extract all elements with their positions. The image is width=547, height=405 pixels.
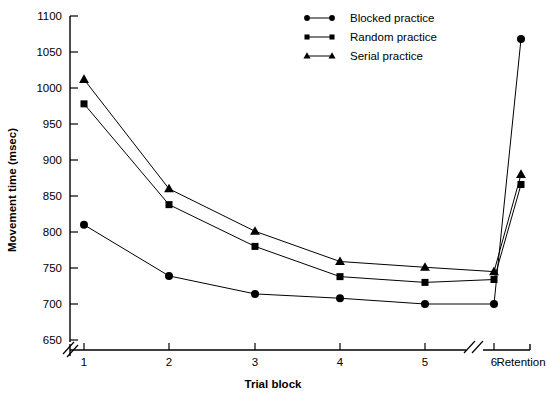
chart-legend: Blocked practiceRandom practiceSerial pr… [303, 12, 436, 62]
y-axis-tick-label: 850 [43, 190, 62, 202]
data-point-marker-triangle [303, 52, 310, 58]
series-line [84, 39, 521, 304]
data-point-marker-triangle [250, 226, 260, 235]
data-point-marker-circle [80, 221, 88, 229]
y-axis-tick-label: 1000 [36, 82, 62, 94]
data-point-marker-triangle [328, 52, 335, 58]
series-line [84, 79, 521, 271]
data-point-marker-circle [329, 15, 335, 21]
data-point-marker-circle [336, 294, 344, 302]
y-axis-tick-label: 700 [43, 298, 62, 310]
legend-item-random-practice: Random practice [304, 31, 436, 43]
x-axis-title: Trial block [245, 378, 302, 390]
axis-ticks [70, 16, 494, 350]
axes [63, 16, 530, 357]
y-axis-tick-label: 750 [43, 262, 62, 274]
data-point-marker-square [81, 100, 88, 107]
legend-label: Serial practice [350, 50, 423, 62]
data-point-marker-circle [421, 300, 429, 308]
data-point-marker-triangle [516, 169, 526, 178]
data-point-marker-circle [517, 35, 525, 43]
data-point-marker-circle [304, 15, 310, 21]
axis-tick-labels: 650700750800850900950100010501100123456R… [36, 10, 545, 368]
data-point-marker-square [304, 34, 309, 39]
series-line [84, 104, 521, 283]
data-series [79, 35, 526, 308]
data-point-marker-circle [165, 272, 173, 280]
legend-item-serial-practice: Serial practice [303, 50, 422, 62]
y-axis-tick-label: 1050 [36, 46, 62, 58]
data-point-marker-triangle [79, 74, 89, 83]
x-axis-tick-label: Retention [496, 356, 545, 368]
data-point-marker-circle [251, 290, 259, 298]
data-point-marker-square [422, 279, 429, 286]
data-point-marker-circle [490, 300, 498, 308]
legend-item-blocked-practice: Blocked practice [304, 12, 434, 24]
y-axis-tick-label: 650 [43, 334, 62, 346]
series-random-practice [81, 100, 525, 286]
data-point-marker-square [491, 276, 498, 283]
chart-container: 650700750800850900950100010501100123456R… [0, 0, 547, 405]
y-axis-tick-label: 950 [43, 118, 62, 130]
data-point-marker-square [337, 273, 344, 280]
data-point-marker-square [252, 243, 259, 250]
x-axis-tick-label: 2 [166, 356, 172, 368]
x-axis-break-icon [464, 341, 483, 353]
data-point-marker-triangle [420, 262, 430, 271]
series-serial-practice [79, 74, 526, 275]
legend-label: Random practice [350, 31, 437, 43]
x-axis-tick-label: 3 [252, 356, 258, 368]
x-axis-tick-label: 4 [337, 356, 344, 368]
y-axis-tick-label: 900 [43, 154, 62, 166]
line-chart: 650700750800850900950100010501100123456R… [0, 0, 547, 405]
y-axis-title: Movement time (msec) [6, 128, 18, 252]
y-axis-tick-label: 800 [43, 226, 62, 238]
x-axis-tick-label: 1 [81, 356, 87, 368]
y-axis-tick-label: 1100 [37, 10, 62, 22]
legend-label: Blocked practice [350, 12, 434, 24]
x-axis-tick-label: 5 [422, 356, 428, 368]
data-point-marker-square [329, 34, 334, 39]
data-point-marker-square [166, 201, 173, 208]
series-blocked-practice [80, 35, 525, 308]
